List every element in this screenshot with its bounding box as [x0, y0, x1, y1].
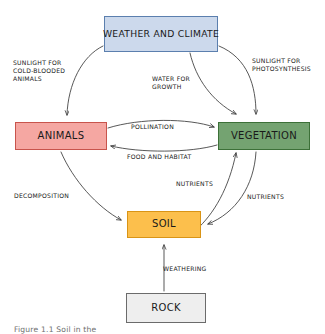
edge-label-nutrients-vegetation-to-soil: NUTRIENTS: [247, 193, 284, 201]
node-rock[interactable]: ROCK: [126, 293, 206, 323]
edge-vegetation-to-soil-nutrients: [208, 152, 256, 224]
edge-animals-to-soil-decomposition: [61, 152, 121, 220]
node-soil-label: SOIL: [152, 219, 176, 230]
edge-label-sunlight-for-cold-blooded-animals: SUNLIGHT FOR COLD-BLOODED ANIMALS: [13, 59, 65, 84]
edge-label-weathering: WEATHERING: [163, 265, 207, 273]
edge-label-water-for-growth: WATER FOR GROWTH: [152, 75, 190, 91]
edge-label-food-and-habitat: FOOD AND HABITAT: [127, 153, 191, 161]
node-vegetation-label: VEGETATION: [231, 131, 297, 142]
edge-label-decomposition: DECOMPOSITION: [14, 192, 69, 200]
node-animals[interactable]: ANIMALS: [15, 122, 107, 150]
node-rock-label: ROCK: [151, 303, 181, 314]
edge-weather-to-vegetation-sunlight: [219, 46, 256, 114]
node-animals-label: ANIMALS: [38, 131, 85, 142]
node-weather-label: WEATHER AND CLIMATE: [103, 29, 219, 39]
edge-label-pollination: POLLINATION: [131, 123, 174, 131]
node-soil[interactable]: SOIL: [127, 211, 201, 238]
edge-label-nutrients-soil-to-vegetation: NUTRIENTS: [176, 180, 213, 188]
edge-label-sunlight-for-photosynthesis: SUNLIGHT FOR PHOTOSYNTHESIS: [252, 57, 311, 73]
edge-soil-to-vegetation-nutrients: [196, 153, 236, 230]
node-vegetation[interactable]: VEGETATION: [218, 122, 310, 150]
edge-vegetation-to-animals-food: [111, 145, 217, 151]
figure-caption: Figure 1.1 Soil in the: [14, 325, 96, 334]
edge-weather-to-vegetation-water: [190, 53, 236, 114]
node-weather-and-climate[interactable]: WEATHER AND CLIMATE: [104, 16, 218, 52]
edge-weather-to-animals: [67, 46, 103, 115]
